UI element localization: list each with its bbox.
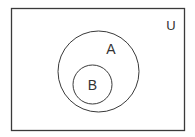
set-a-circle <box>58 31 139 112</box>
universe-label: U <box>166 18 175 33</box>
set-a-label: A <box>106 41 116 57</box>
venn-diagram: U A B <box>0 0 195 137</box>
set-b-label: B <box>88 77 97 93</box>
